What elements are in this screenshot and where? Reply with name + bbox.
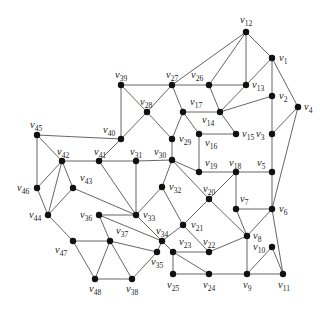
node-label-v39: v39 bbox=[115, 69, 127, 83]
edge-v44-v47 bbox=[48, 215, 73, 241]
node-v10 bbox=[269, 244, 275, 250]
node-v15 bbox=[233, 131, 239, 137]
node-v21 bbox=[180, 222, 186, 228]
node-v34 bbox=[159, 238, 165, 244]
node-label-v43: v43 bbox=[80, 172, 92, 186]
node-label-v26: v26 bbox=[191, 69, 203, 83]
node-v17 bbox=[180, 109, 186, 115]
node-v22 bbox=[206, 249, 212, 255]
node-v24 bbox=[206, 271, 212, 277]
node-label-v13: v13 bbox=[252, 79, 264, 93]
node-label-v25: v25 bbox=[167, 279, 179, 293]
node-v13 bbox=[243, 82, 249, 88]
edge-v47-v48 bbox=[73, 241, 95, 279]
node-v32 bbox=[159, 184, 165, 190]
node-v40 bbox=[118, 136, 124, 142]
node-label-v31: v31 bbox=[130, 146, 142, 160]
node-label-v1: v1 bbox=[279, 52, 288, 66]
node-v37 bbox=[107, 238, 113, 244]
node-v28 bbox=[144, 109, 150, 115]
edge-v6-v8 bbox=[247, 209, 272, 236]
node-label-v18: v18 bbox=[229, 157, 241, 171]
node-v35 bbox=[154, 249, 160, 255]
edge-v20-v21 bbox=[183, 199, 209, 225]
edge-v6-v11 bbox=[272, 209, 283, 274]
edge-v28-v29 bbox=[147, 112, 172, 139]
node-label-v29: v29 bbox=[179, 133, 191, 147]
node-v6 bbox=[269, 206, 275, 212]
node-v12 bbox=[243, 29, 249, 35]
graph-nodes bbox=[34, 29, 301, 282]
node-v8 bbox=[244, 233, 250, 239]
node-v5 bbox=[269, 169, 275, 175]
edge-v37-v48 bbox=[95, 241, 110, 279]
node-v20 bbox=[206, 196, 212, 202]
node-label-v9: v9 bbox=[243, 279, 252, 293]
node-v47 bbox=[70, 238, 76, 244]
edge-v42-v43 bbox=[62, 161, 73, 188]
node-label-v44: v44 bbox=[29, 209, 41, 223]
node-v3 bbox=[269, 131, 275, 137]
edge-v7-v8 bbox=[236, 209, 247, 236]
node-v30 bbox=[169, 157, 175, 163]
node-label-v2: v2 bbox=[279, 90, 288, 104]
edge-v27-v17 bbox=[172, 85, 183, 112]
node-v38 bbox=[129, 276, 135, 282]
edge-v30-v19 bbox=[172, 160, 199, 172]
node-v29 bbox=[169, 136, 175, 142]
node-label-v24: v24 bbox=[203, 279, 215, 293]
node-label-v6: v6 bbox=[279, 203, 288, 217]
node-label-v16: v16 bbox=[205, 137, 217, 151]
node-label-v38: v38 bbox=[126, 283, 138, 297]
node-v39 bbox=[118, 82, 124, 88]
node-label-v21: v21 bbox=[191, 219, 203, 233]
edge-v12-v27 bbox=[172, 32, 246, 85]
node-v14 bbox=[217, 109, 223, 115]
edge-v17-v16 bbox=[183, 112, 199, 134]
node-v48 bbox=[92, 276, 98, 282]
node-v43 bbox=[70, 185, 76, 191]
node-label-v36: v36 bbox=[80, 209, 92, 223]
node-label-v12: v12 bbox=[240, 14, 252, 28]
node-label-v11: v11 bbox=[278, 279, 290, 293]
node-label-v41: v41 bbox=[94, 146, 106, 160]
node-v16 bbox=[196, 131, 202, 137]
node-v26 bbox=[206, 82, 212, 88]
node-v23 bbox=[170, 249, 176, 255]
edge-v10-v11 bbox=[272, 247, 283, 274]
node-v2 bbox=[269, 93, 275, 99]
node-label-v17: v17 bbox=[190, 96, 202, 110]
edge-v28-v40 bbox=[121, 112, 147, 139]
node-label-v32: v32 bbox=[169, 181, 181, 195]
node-label-v45: v45 bbox=[30, 119, 42, 133]
node-label-v40: v40 bbox=[103, 124, 115, 138]
node-v19 bbox=[196, 169, 202, 175]
node-v25 bbox=[170, 271, 176, 277]
edge-v46-v44 bbox=[37, 188, 48, 215]
node-label-v14: v14 bbox=[202, 114, 214, 128]
node-label-v3: v3 bbox=[256, 128, 265, 142]
node-v11 bbox=[280, 271, 286, 277]
edge-v1-v13 bbox=[246, 58, 272, 85]
node-label-v19: v19 bbox=[205, 157, 217, 171]
edge-v37-v38 bbox=[110, 241, 132, 279]
node-v46 bbox=[34, 185, 40, 191]
edge-v20-v8 bbox=[209, 199, 247, 236]
graph-diagram: v1v2v3v4v5v6v7v8v9v10v11v12v13v14v15v16v… bbox=[0, 0, 329, 310]
edge-v12-v1 bbox=[246, 32, 272, 58]
node-label-v30: v30 bbox=[154, 146, 166, 160]
node-label-v37: v37 bbox=[116, 225, 128, 239]
edge-v30-v31 bbox=[136, 160, 172, 161]
graph-labels: v1v2v3v4v5v6v7v8v9v10v11v12v13v14v15v16v… bbox=[17, 14, 313, 297]
node-label-v23: v23 bbox=[179, 236, 191, 250]
node-v45 bbox=[34, 132, 40, 138]
node-v36 bbox=[96, 212, 102, 218]
node-v1 bbox=[269, 55, 275, 61]
node-label-v4: v4 bbox=[304, 101, 313, 115]
node-label-v7: v7 bbox=[240, 193, 249, 207]
node-v4 bbox=[295, 104, 301, 110]
node-v9 bbox=[244, 271, 250, 277]
node-v44 bbox=[45, 212, 51, 218]
node-v33 bbox=[133, 212, 139, 218]
node-v27 bbox=[169, 82, 175, 88]
